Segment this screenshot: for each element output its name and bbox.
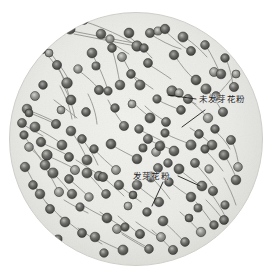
label-germinated-pollen: 发芽花粉: [133, 171, 170, 181]
micrograph-figure: 未发芽花粉 发芽花粉: [0, 0, 271, 276]
label-ungerminated-pollen: 未发芽花粉: [199, 94, 245, 104]
micrograph-image: [0, 0, 271, 276]
